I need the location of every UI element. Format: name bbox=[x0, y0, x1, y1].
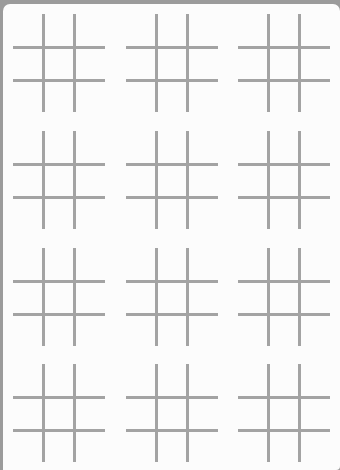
horizontal-grid-line bbox=[126, 280, 218, 283]
tic-tac-toe-board-10[interactable] bbox=[13, 364, 105, 462]
horizontal-grid-line bbox=[126, 196, 218, 199]
tic-tac-toe-board-8[interactable] bbox=[126, 248, 218, 346]
vertical-grid-line bbox=[186, 248, 189, 346]
tic-tac-toe-board-2[interactable] bbox=[126, 14, 218, 112]
tic-tac-toe-board-3[interactable] bbox=[238, 14, 330, 112]
vertical-grid-line bbox=[42, 248, 45, 346]
horizontal-grid-line bbox=[126, 429, 218, 432]
vertical-grid-line bbox=[298, 14, 301, 112]
vertical-grid-line bbox=[298, 364, 301, 462]
horizontal-grid-line bbox=[238, 313, 330, 316]
horizontal-grid-line bbox=[238, 396, 330, 399]
horizontal-grid-line bbox=[238, 163, 330, 166]
vertical-grid-line bbox=[73, 14, 76, 112]
vertical-grid-line bbox=[155, 14, 158, 112]
horizontal-grid-line bbox=[13, 79, 105, 82]
vertical-grid-line bbox=[42, 364, 45, 462]
horizontal-grid-line bbox=[13, 280, 105, 283]
vertical-grid-line bbox=[267, 131, 270, 229]
tic-tac-toe-board-1[interactable] bbox=[13, 14, 105, 112]
tic-tac-toe-board-11[interactable] bbox=[126, 364, 218, 462]
horizontal-grid-line bbox=[126, 313, 218, 316]
horizontal-grid-line bbox=[13, 163, 105, 166]
vertical-grid-line bbox=[42, 131, 45, 229]
game-sheet-panel bbox=[3, 4, 340, 470]
horizontal-grid-line bbox=[13, 313, 105, 316]
horizontal-grid-line bbox=[13, 46, 105, 49]
vertical-grid-line bbox=[73, 131, 76, 229]
vertical-grid-line bbox=[155, 131, 158, 229]
horizontal-grid-line bbox=[126, 163, 218, 166]
vertical-grid-line bbox=[298, 248, 301, 346]
horizontal-grid-line bbox=[238, 46, 330, 49]
vertical-grid-line bbox=[186, 364, 189, 462]
horizontal-grid-line bbox=[13, 429, 105, 432]
horizontal-grid-line bbox=[238, 429, 330, 432]
vertical-grid-line bbox=[155, 364, 158, 462]
vertical-grid-line bbox=[186, 14, 189, 112]
vertical-grid-line bbox=[73, 248, 76, 346]
tic-tac-toe-board-6[interactable] bbox=[238, 131, 330, 229]
tic-tac-toe-board-9[interactable] bbox=[238, 248, 330, 346]
vertical-grid-line bbox=[298, 131, 301, 229]
horizontal-grid-line bbox=[238, 280, 330, 283]
horizontal-grid-line bbox=[126, 79, 218, 82]
horizontal-grid-line bbox=[126, 396, 218, 399]
vertical-grid-line bbox=[155, 248, 158, 346]
horizontal-grid-line bbox=[126, 46, 218, 49]
vertical-grid-line bbox=[42, 14, 45, 112]
tic-tac-toe-board-5[interactable] bbox=[126, 131, 218, 229]
vertical-grid-line bbox=[186, 131, 189, 229]
horizontal-grid-line bbox=[13, 396, 105, 399]
vertical-grid-line bbox=[267, 14, 270, 112]
horizontal-grid-line bbox=[238, 196, 330, 199]
tic-tac-toe-board-7[interactable] bbox=[13, 248, 105, 346]
tic-tac-toe-board-4[interactable] bbox=[13, 131, 105, 229]
horizontal-grid-line bbox=[13, 196, 105, 199]
tic-tac-toe-board-12[interactable] bbox=[238, 364, 330, 462]
vertical-grid-line bbox=[267, 364, 270, 462]
horizontal-grid-line bbox=[238, 79, 330, 82]
vertical-grid-line bbox=[73, 364, 76, 462]
vertical-grid-line bbox=[267, 248, 270, 346]
